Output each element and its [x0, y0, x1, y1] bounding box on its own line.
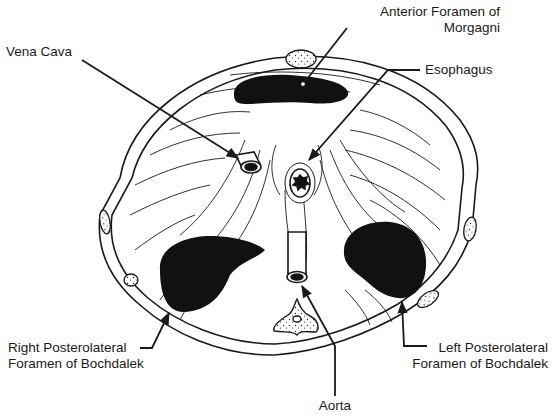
label-esophagus: Esophagus: [425, 62, 493, 78]
label-right-posterolateral-foramen-of-bochdalek: Right Posterolateral Foramen of Bochdale…: [8, 340, 144, 372]
left-bochdalek-shape: [344, 222, 426, 298]
label-vena-cava: Vena Cava: [6, 44, 72, 60]
leader-aorta: [302, 286, 335, 396]
label-aorta: Aorta: [305, 398, 365, 414]
right-bochdalek-shape: [160, 236, 265, 312]
label-anterior-foramen-of-morgagni: Anterior Foramen of Morgagni: [330, 4, 500, 36]
aorta-shape: [287, 232, 307, 283]
vena-cava-shape: [236, 152, 261, 173]
esophagus-shape: [285, 163, 315, 203]
foramen-of-morgagni-shape: [234, 75, 348, 104]
label-left-posterolateral-foramen-of-bochdalek: Left Posterolateral Foramen of Bochdalek: [370, 340, 548, 372]
leader-right-bochdalek: [140, 313, 169, 348]
